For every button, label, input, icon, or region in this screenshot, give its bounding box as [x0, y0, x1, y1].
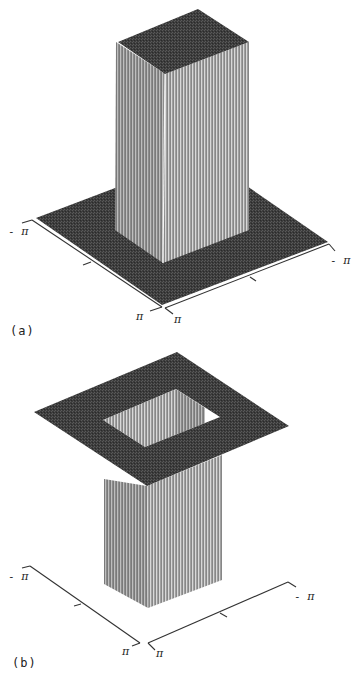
a-axis-label-1: π	[136, 311, 143, 322]
a-right-axis-tick-2	[329, 244, 335, 251]
figure-panel-a: - ππ- ππ(a)	[0, 0, 363, 339]
a-left-axis-tick-2	[150, 307, 162, 311]
a-axis-label-0: - π	[8, 226, 28, 237]
surface-plot-b	[0, 339, 363, 678]
a-axis-label-2: - π	[330, 255, 350, 266]
column-left-face	[104, 479, 148, 608]
b-right-axis-tick-2	[288, 582, 296, 587]
a-right-axis-tick-0	[165, 308, 173, 314]
b-axis-label-1: π	[122, 646, 129, 657]
a-axis-label-3: π	[174, 314, 181, 325]
b-right-axis-tick-0	[148, 643, 155, 650]
b-right-axis-tick-1	[220, 613, 227, 617]
a-left-axis-tick-1	[83, 262, 91, 265]
b-axis-label-3: π	[156, 648, 163, 659]
b-panel-label: (b)	[12, 657, 37, 669]
b-axis-label-2: - π	[294, 591, 314, 602]
a-right-axis-tick-1	[250, 277, 256, 281]
b-axis-label-0: - π	[8, 571, 28, 582]
a-left-axis-tick-0	[22, 220, 32, 223]
b-left-axis-tick-2	[132, 643, 140, 646]
b-left-axis-tick-1	[74, 604, 81, 606]
pillar-left-face	[115, 42, 165, 263]
pillar-right-face	[163, 42, 249, 263]
a-panel-label: (a)	[10, 325, 35, 337]
b-left-axis-tick-0	[22, 566, 30, 568]
figure-panel-b: - ππ- ππ(b)	[0, 339, 363, 678]
surface-plot-a	[0, 0, 363, 339]
